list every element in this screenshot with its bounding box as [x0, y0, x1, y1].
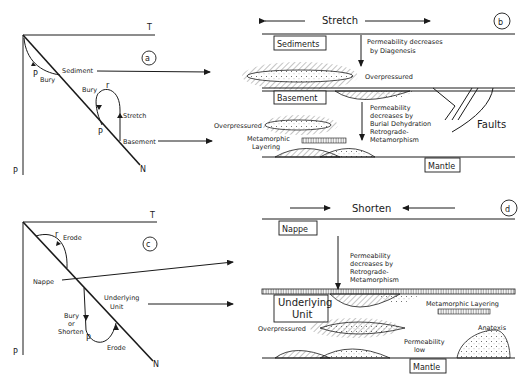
- svg-text:P: P: [86, 334, 91, 343]
- svg-text:Overpressured: Overpressured: [258, 325, 306, 333]
- svg-text:Erode: Erode: [63, 234, 82, 242]
- svg-text:Erode: Erode: [107, 344, 126, 352]
- svg-text:P: P: [98, 128, 103, 137]
- svg-text:Mantle: Mantle: [428, 162, 455, 171]
- svg-text:Permeability: Permeability: [404, 338, 445, 346]
- svg-text:Nappe: Nappe: [33, 278, 54, 286]
- svg-text:Basement: Basement: [123, 138, 156, 146]
- svg-text:Permeability: Permeability: [350, 252, 391, 260]
- svg-text:Faults: Faults: [477, 119, 506, 130]
- svg-text:Metamorphic Layering: Metamorphic Layering: [426, 300, 499, 308]
- svg-text:Metamorphism: Metamorphism: [350, 276, 399, 284]
- svg-text:Layering: Layering: [252, 143, 280, 151]
- svg-text:Sediments: Sediments: [277, 40, 319, 49]
- svg-text:a: a: [145, 54, 150, 63]
- svg-text:Unit: Unit: [292, 309, 312, 320]
- svg-text:P: P: [33, 70, 38, 79]
- panel-c-pt-diagram: T P N c r Erode Nappe Underlying Unit Bu…: [13, 211, 233, 369]
- svg-text:Unit: Unit: [110, 303, 124, 311]
- svg-text:Permeability: Permeability: [370, 104, 411, 112]
- svg-text:Mantle: Mantle: [413, 363, 440, 372]
- anatexis-body: [457, 330, 510, 358]
- svg-text:Overpressured: Overpressured: [365, 73, 413, 81]
- svg-text:Underlying: Underlying: [278, 297, 332, 308]
- svg-text:decreases by: decreases by: [370, 112, 413, 120]
- svg-text:Nappe: Nappe: [282, 225, 308, 234]
- svg-text:Sediment: Sediment: [62, 67, 94, 75]
- p-axis-label: P: [13, 167, 18, 176]
- svg-text:Retrograde-: Retrograde-: [370, 128, 409, 136]
- geotherm-label: N: [140, 165, 146, 174]
- svg-text:N: N: [153, 360, 159, 369]
- svg-text:Stretch: Stretch: [123, 112, 146, 120]
- svg-text:Permeability decreases: Permeability decreases: [367, 38, 443, 46]
- svg-text:r: r: [55, 230, 59, 239]
- panel-b-cross-section: Stretch b Sediments Permeability decreas…: [214, 13, 515, 172]
- svg-text:P: P: [13, 348, 18, 357]
- svg-text:Bury: Bury: [64, 312, 79, 320]
- svg-text:low: low: [414, 346, 426, 354]
- svg-text:T: T: [149, 211, 155, 220]
- diagram-canvas: T P N a P Bury Sediment Bury r Stretch P…: [0, 0, 529, 384]
- svg-text:Underlying: Underlying: [104, 294, 139, 302]
- nappe-arrow: [62, 262, 233, 280]
- thrust-zone: [262, 289, 515, 294]
- svg-text:Bury: Bury: [40, 76, 55, 84]
- svg-text:b: b: [498, 18, 503, 27]
- stretch-title: Stretch: [322, 15, 358, 26]
- svg-text:Overpressured: Overpressured: [214, 122, 262, 130]
- svg-text:Metamorphic: Metamorphic: [247, 135, 290, 143]
- svg-text:Retrograde-: Retrograde-: [350, 268, 389, 276]
- metamorphic-layering: [302, 138, 346, 143]
- svg-text:Basement: Basement: [277, 94, 317, 103]
- svg-text:d: d: [505, 205, 510, 214]
- svg-text:or: or: [68, 320, 75, 328]
- svg-text:Burial Dehydration: Burial Dehydration: [370, 120, 431, 128]
- panel-d-cross-section: Shorten d Nappe Permeability decreases b…: [258, 200, 517, 373]
- svg-text:Metamorphism: Metamorphism: [370, 136, 419, 144]
- panel-a-pt-diagram: T P N a P Bury Sediment Bury r Stretch P…: [13, 23, 212, 176]
- svg-text:c: c: [146, 240, 150, 249]
- svg-text:Shorten: Shorten: [58, 328, 84, 336]
- svg-text:decreases by: decreases by: [350, 260, 393, 268]
- svg-text:Bury: Bury: [82, 86, 97, 94]
- svg-text:by Diagenesis: by Diagenesis: [370, 47, 416, 55]
- shorten-title: Shorten: [352, 203, 391, 214]
- t-axis-label: T: [146, 23, 152, 32]
- sediment-arrow: [97, 71, 210, 72]
- svg-text:Anatexis: Anatexis: [478, 324, 507, 332]
- svg-text:r: r: [106, 81, 110, 90]
